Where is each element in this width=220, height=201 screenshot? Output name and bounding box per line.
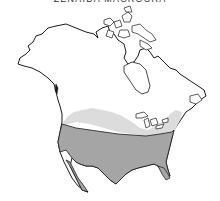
range-map [0, 0, 220, 201]
